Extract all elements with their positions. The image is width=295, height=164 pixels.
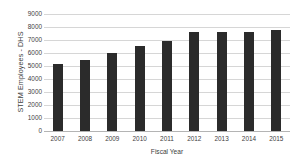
bar-2013 <box>217 32 227 131</box>
y-axis-tick-label: 0 <box>18 127 42 135</box>
x-axis-tick-label: 2015 <box>263 134 290 144</box>
x-axis-tick-label: 2011 <box>153 134 180 144</box>
y-axis-tick-labels: 9000800070006000500040003000200010000 <box>18 8 42 136</box>
y-axis-tick-label: 7000 <box>18 36 42 44</box>
bar-slot <box>44 14 71 131</box>
bar-slot <box>263 14 290 131</box>
bar-2007 <box>53 64 63 131</box>
axis-baseline <box>44 131 290 132</box>
x-axis-title: Fiscal Year <box>44 147 290 157</box>
bar-2012 <box>189 32 199 131</box>
bar-slot <box>126 14 153 131</box>
bar-series <box>44 14 290 131</box>
y-axis-tick-label: 1000 <box>18 114 42 122</box>
y-axis-tick-label: 2000 <box>18 101 42 109</box>
x-axis-tick-label: 2013 <box>208 134 235 144</box>
x-axis-tick-label: 2009 <box>99 134 126 144</box>
bar-slot <box>153 14 180 131</box>
y-axis-tick-label: 4000 <box>18 75 42 83</box>
x-axis-tick-labels: 200720082009201020112012201320142015 <box>44 134 290 144</box>
plot-area <box>44 14 290 131</box>
bar-2008 <box>80 60 90 131</box>
bar-chart-figure: STEM Employees - DHS 9000800070006000500… <box>0 0 295 164</box>
bar-2015 <box>271 30 281 131</box>
bar-2009 <box>107 53 117 131</box>
bar-slot <box>181 14 208 131</box>
x-axis-tick-label: 2008 <box>71 134 98 144</box>
x-axis-tick-label: 2014 <box>235 134 262 144</box>
x-axis-tick-label: 2012 <box>181 134 208 144</box>
y-axis-tick-label: 5000 <box>18 62 42 70</box>
bar-slot <box>208 14 235 131</box>
bar-2014 <box>244 32 254 131</box>
bar-slot <box>235 14 262 131</box>
bar-2010 <box>135 46 145 131</box>
y-axis-tick-label: 9000 <box>18 10 42 18</box>
y-axis-tick-label: 3000 <box>18 88 42 96</box>
y-axis-tick-label: 6000 <box>18 49 42 57</box>
bar-slot <box>99 14 126 131</box>
bar-slot <box>71 14 98 131</box>
bar-2011 <box>162 41 172 131</box>
y-axis-tick-label: 8000 <box>18 23 42 31</box>
x-axis-tick-label: 2007 <box>44 134 71 144</box>
x-axis-tick-label: 2010 <box>126 134 153 144</box>
